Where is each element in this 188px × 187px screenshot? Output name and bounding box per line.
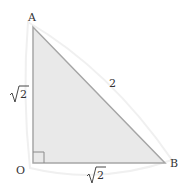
vertex-label-a: A [27,11,37,24]
vertex-label-b: B [170,157,178,170]
triangle-oab [33,27,165,163]
triangle-diagram: A O B 2 2 2 [0,0,188,187]
side-label-oa-radicand: 2 [20,88,27,101]
vertex-label-o: O [16,164,25,177]
side-label-ob-radicand: 2 [97,169,104,182]
side-label-ab: 2 [109,77,116,90]
side-label-oa: 2 [10,86,29,102]
